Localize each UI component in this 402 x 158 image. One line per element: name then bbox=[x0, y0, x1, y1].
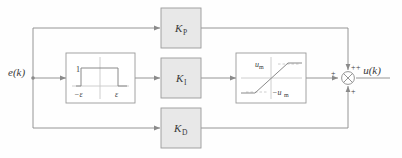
svg-text:K: K bbox=[175, 72, 184, 84]
sum-sign-middle: + bbox=[356, 63, 361, 72]
sum-sign-bottom: + bbox=[351, 87, 356, 96]
output-label: u(k) bbox=[363, 64, 381, 77]
svg-text:K: K bbox=[173, 122, 182, 134]
sum-sign-input-left: + bbox=[331, 69, 336, 78]
svg-text:m: m bbox=[259, 64, 264, 70]
deadband-amplitude-label: 1 bbox=[76, 65, 80, 74]
svg-text:m: m bbox=[284, 92, 289, 98]
svg-text:D: D bbox=[182, 128, 188, 137]
summing-junction-symbol bbox=[342, 72, 355, 85]
input-label: e(k) bbox=[8, 66, 25, 79]
svg-text:P: P bbox=[183, 28, 187, 37]
deadband-lower-threshold-label: −ε bbox=[74, 90, 83, 99]
svg-text:−u: −u bbox=[272, 88, 281, 97]
svg-text:K: K bbox=[174, 22, 183, 34]
saturation-block bbox=[236, 53, 306, 103]
pid-block-diagram: e(k) u(k) 1 −ε ε u m −u m K P K I K D + … bbox=[0, 0, 402, 158]
diagram-canvas: e(k) u(k) 1 −ε ε u m −u m K P K I K D + … bbox=[0, 0, 402, 158]
